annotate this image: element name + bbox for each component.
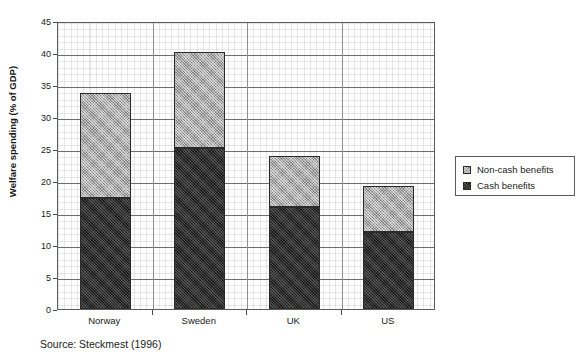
y-axis-tick-label: 0: [0, 305, 51, 315]
y-axis-tick-label: 20: [0, 177, 51, 187]
x-axis-tick-label-uk: UK: [287, 315, 300, 326]
stacked-bar: [174, 21, 225, 309]
y-axis-tick-label: 30: [0, 113, 51, 123]
chart-legend: Non-cash benefitsCash benefits: [455, 156, 575, 196]
bar-segment-cash-benefits: [363, 232, 414, 309]
bar-segment-non-cash-benefits: [269, 156, 320, 207]
y-axis-tick-label: 5: [0, 273, 51, 283]
legend-label: Non-cash benefits: [477, 164, 554, 175]
bar-segment-cash-benefits: [269, 207, 320, 309]
legend-label: Cash benefits: [477, 180, 535, 191]
stacked-bar: [80, 21, 131, 309]
category-separator: [342, 23, 343, 309]
legend-item[interactable]: Cash benefits: [463, 180, 535, 191]
y-axis-tick-label: 35: [0, 81, 51, 91]
y-axis-tick-label: 45: [0, 17, 51, 27]
bar-segment-non-cash-benefits: [80, 93, 131, 198]
bar-segment-cash-benefits: [174, 148, 225, 309]
x-axis-tick-mark: [341, 310, 342, 315]
source-note: Source: Steckmest (1996): [40, 338, 161, 350]
stacked-bar: [269, 21, 320, 309]
stacked-bar: [363, 21, 414, 309]
cut-off-title: [0, 0, 579, 5]
x-axis-tick-label-us: US: [381, 315, 394, 326]
y-axis-tick-label: 40: [0, 49, 51, 59]
category-separator: [247, 23, 248, 309]
x-axis-tick-mark: [152, 310, 153, 315]
category-separator: [153, 23, 154, 309]
y-axis-title: Welfare spending (% of GDP): [7, 2, 18, 262]
y-axis-tick-label: 25: [0, 145, 51, 155]
y-axis-tick-mark: [53, 310, 57, 311]
y-axis-tick-label: 10: [0, 241, 51, 251]
legend-item[interactable]: Non-cash benefits: [463, 164, 554, 175]
bar-segment-cash-benefits: [80, 198, 131, 309]
bar-segment-non-cash-benefits: [363, 186, 414, 232]
cash-swatch-icon: [463, 182, 471, 190]
bar-segment-non-cash-benefits: [174, 52, 225, 148]
y-axis-tick-label: 15: [0, 209, 51, 219]
x-axis-tick-label-norway: Norway: [88, 315, 120, 326]
x-axis-tick-mark: [246, 310, 247, 315]
noncash-swatch-icon: [463, 166, 471, 174]
x-axis-tick-label-sweden: Sweden: [182, 315, 216, 326]
plot-area: [57, 22, 435, 310]
